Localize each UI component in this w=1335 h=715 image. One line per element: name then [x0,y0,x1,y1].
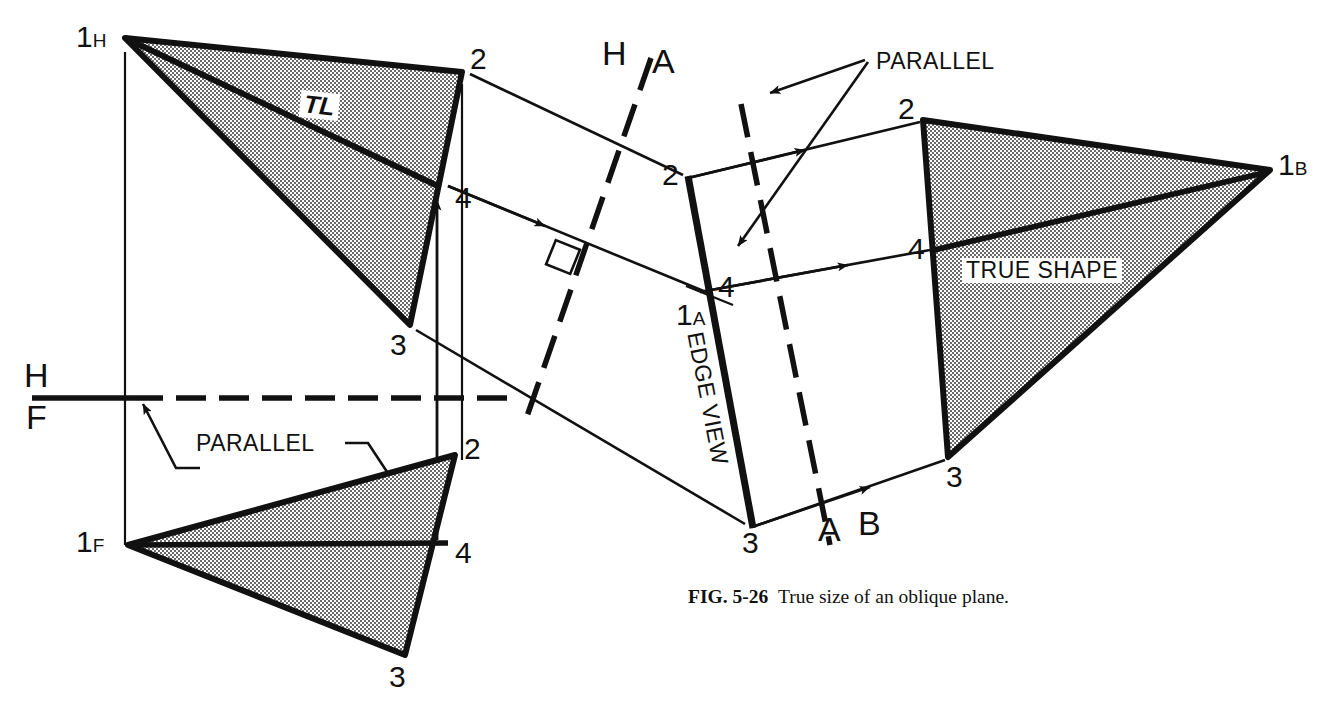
label-top-view-point-2: 2 [470,44,487,74]
parallel-leader-to-edge-view [738,62,868,246]
fold-line-ab-dashed [741,104,830,545]
label-aux-view-point-3: 3 [742,528,759,558]
true-shape-view-group [923,120,1270,457]
label-aux-view-point-1: 1A [676,300,705,330]
front-view-line-1-4 [128,543,448,545]
label-fold-hf-upper: H [24,358,49,392]
figure-caption: FIG. 5-26 True size of an oblique plane. [688,586,1009,608]
label-front-view-point-2: 2 [464,434,481,464]
true-shape-triangle-1-2-3 [923,120,1270,457]
projector-2h-to-2a [470,74,683,175]
right-angle-symbol [546,240,580,274]
label-true-shape-point-4: 4 [908,234,925,264]
parallel-leader-lower-to-hf [143,404,200,468]
label-parallel-upper: PARALLEL [876,50,995,73]
front-view-triangle-1-2-3 [128,455,455,655]
label-true-length: TL [299,90,340,121]
label-front-view-point-1: 1F [76,527,104,557]
parallel-upper-callout [738,60,868,246]
top-view-triangle-1-2-3 [125,38,462,325]
projector-3a-to-3b-arrow [752,487,870,527]
front-view-group [128,455,455,655]
label-front-view-point-4: 4 [455,538,472,568]
label-top-view-point-3: 3 [390,330,407,360]
label-ts-1-subscript: B [1295,158,1308,179]
label-fold-ab-left: A [818,512,841,546]
label-front-1-subscript: F [93,535,105,556]
label-top-1-subscript: H [93,30,107,51]
label-top-view-point-4: 4 [455,183,472,213]
label-true-shape-point-1: 1B [1278,150,1307,180]
label-aux-1-numeral: 1 [676,298,693,331]
figure-canvas: 1H 2 4 3 TL H F PARALLEL 1F 2 4 3 H A PA… [0,0,1335,715]
label-top-1-numeral: 1 [76,20,93,53]
label-true-shape: TRUE SHAPE [962,258,1122,283]
fold-line-ab-group [741,104,830,545]
fold-line-ha-dashed [524,58,651,425]
label-true-shape-point-2: 2 [898,94,915,124]
label-parallel-lower: PARALLEL [196,432,315,455]
label-fold-ab-right: B [858,506,881,540]
label-ts-1-numeral: 1 [1278,148,1295,181]
fold-line-ha-group [524,58,651,425]
figure-caption-number: FIG. 5-26 [688,586,768,607]
label-fold-ha-left: H [602,36,627,70]
descriptive-geometry-drawing [0,0,1335,715]
label-aux-1-subscript: A [693,308,706,329]
label-true-shape-point-3: 3 [946,462,963,492]
label-top-view-point-1: 1H [76,22,106,52]
label-front-1-numeral: 1 [76,525,93,558]
label-fold-ha-right: A [652,44,675,78]
label-aux-view-point-4: 4 [718,272,735,302]
label-front-view-point-3: 3 [389,662,406,692]
label-aux-view-point-2: 2 [662,160,679,190]
figure-caption-text: True size of an oblique plane. [778,586,1009,607]
label-fold-hf-lower: F [26,400,47,434]
